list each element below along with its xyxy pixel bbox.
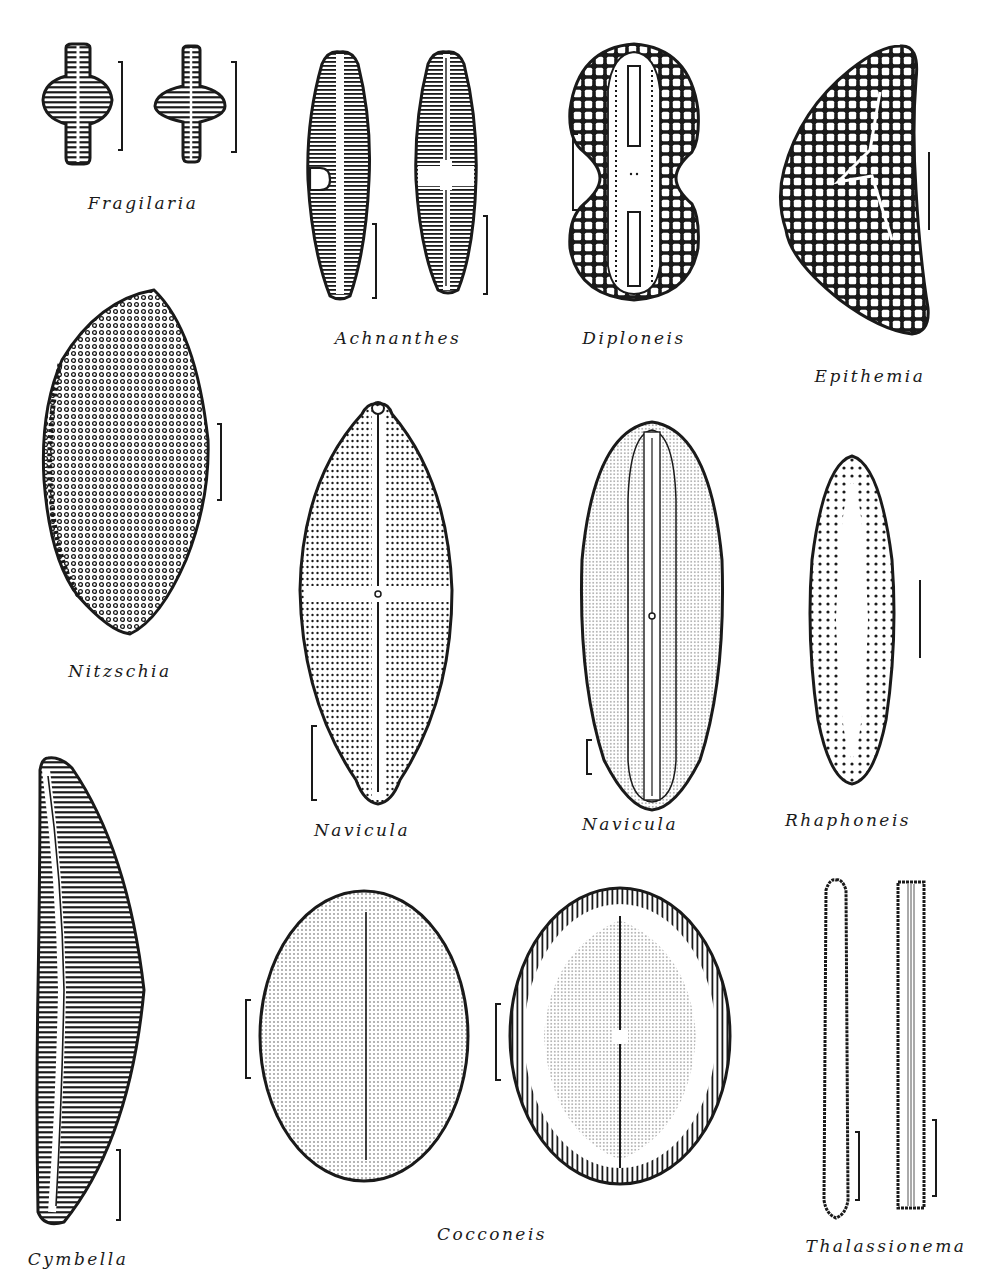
label-thalassionema: Thalassionema	[806, 1236, 967, 1256]
label-fragilaria: Fragilaria	[88, 193, 199, 213]
label-epithemia: Epithemia	[815, 366, 926, 386]
epithemia-specimen	[780, 46, 929, 334]
thalassionema-specimen	[824, 880, 936, 1218]
label-cymbella: Cymbella	[28, 1249, 129, 1269]
label-navicula-2: Navicula	[582, 814, 678, 834]
label-achnanthes: Achnanthes	[335, 328, 461, 348]
label-rhaphoneis: Rhaphoneis	[785, 810, 911, 830]
achnanthes-specimen	[308, 52, 487, 299]
label-diploneis: Diploneis	[582, 328, 685, 348]
cymbella-specimen	[37, 758, 144, 1224]
diploneis-specimen	[570, 44, 699, 300]
nitzschia-specimen	[43, 290, 221, 634]
navicula-1-specimen	[300, 402, 452, 804]
rhaphoneis-specimen	[810, 456, 920, 784]
cocconeis-specimen	[246, 888, 730, 1184]
label-cocconeis: Cocconeis	[437, 1224, 547, 1244]
label-nitzschia: Nitzschia	[68, 661, 171, 681]
diatom-plate: Fragilaria Achnanthes Diploneis Epithemi…	[0, 0, 984, 1281]
navicula-2-specimen	[581, 422, 722, 810]
fragilaria-specimen	[43, 44, 236, 164]
label-navicula-1: Navicula	[314, 820, 410, 840]
